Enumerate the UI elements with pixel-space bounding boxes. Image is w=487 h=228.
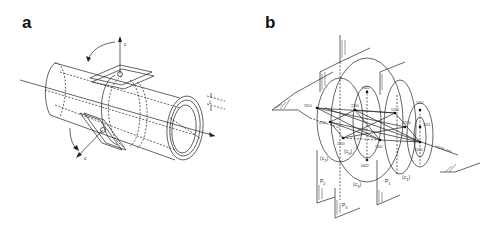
point-label: 1̄010 bbox=[304, 104, 312, 108]
point-label: ̄1210 bbox=[390, 108, 399, 112]
svg-text:(c2): (c2) bbox=[320, 155, 328, 163]
svg-text:(c4): (c4) bbox=[344, 148, 352, 156]
point-label: 000̄2̄ bbox=[361, 164, 370, 168]
point-label: 1012 bbox=[416, 101, 424, 105]
panel-a: a bbox=[0, 0, 240, 228]
panel-b: b bbox=[240, 0, 487, 228]
point-label: 0002 bbox=[362, 86, 370, 90]
point-label: 1011 bbox=[423, 123, 430, 127]
point-label: 11̄00 bbox=[375, 145, 382, 149]
cylinder-crystal-diagram: c c c bbox=[0, 0, 240, 228]
svg-text:P2: P2 bbox=[320, 178, 326, 186]
c-label-right: c bbox=[209, 99, 212, 105]
c-label-top: c bbox=[124, 41, 127, 47]
needle-axis-label: needle axis bbox=[435, 144, 453, 153]
point-label: 1̄21̄0 bbox=[337, 142, 345, 146]
svg-text:P3: P3 bbox=[342, 202, 348, 210]
cylinder-axis bbox=[20, 80, 215, 136]
c-axis-bottom bbox=[78, 130, 103, 156]
c-label-bottom: c bbox=[84, 155, 87, 161]
stereographic-projection-diagram: 1̄010 0̄1̄10 1̄1̄00 0002 1̄21̄0 0 11̄00 … bbox=[240, 0, 487, 228]
svg-text:(c3): (c3) bbox=[353, 181, 361, 189]
point-label: 0̄1̄10 bbox=[403, 121, 411, 125]
point-label: 0̄1̄10 bbox=[319, 121, 327, 125]
point-label: 1̄1̄00 bbox=[351, 104, 359, 108]
point-label: 1010 bbox=[415, 148, 423, 152]
point-label: 0 bbox=[364, 128, 366, 132]
svg-text:(c1): (c1) bbox=[402, 174, 410, 182]
svg-text:P1: P1 bbox=[385, 178, 391, 186]
